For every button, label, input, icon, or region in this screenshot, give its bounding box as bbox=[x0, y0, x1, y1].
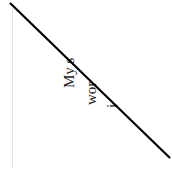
strike-through-line bbox=[0, 0, 172, 172]
document-page: My s wor i bbox=[0, 0, 172, 172]
